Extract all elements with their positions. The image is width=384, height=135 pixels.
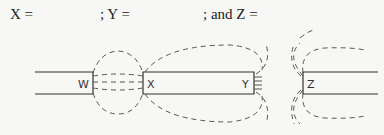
magnetic-field-diagram: W X Y Z: [0, 0, 384, 135]
pole-y-label: Y: [241, 78, 249, 91]
pole-w-label: W: [78, 78, 89, 91]
pole-labels: W X Y Z: [78, 78, 315, 91]
field-lines: [93, 30, 365, 124]
pole-x-label: X: [147, 78, 155, 91]
pole-z-label: Z: [307, 78, 315, 91]
magnet-middle: [143, 72, 254, 94]
